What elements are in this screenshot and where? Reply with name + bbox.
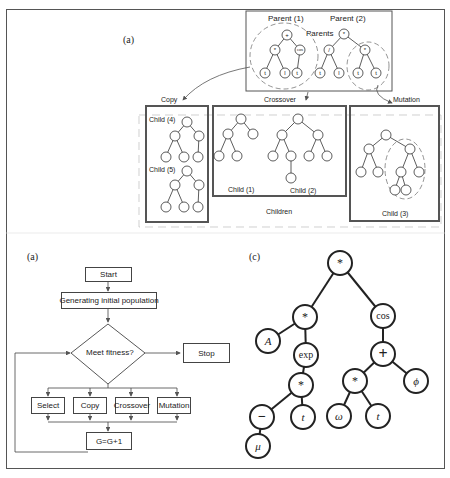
node-t-left: t	[291, 405, 315, 429]
node-exp-mul: *	[289, 373, 313, 397]
child-1-label: Child (1)	[228, 186, 254, 193]
node-t: t	[371, 68, 381, 78]
mutation-label: Mutation	[393, 96, 420, 103]
panel-label-flowchart: (a)	[27, 252, 38, 262]
init-population-box: Generating initial population	[61, 292, 157, 309]
node-plus: +	[282, 30, 292, 40]
child-4-label: Child (4)	[149, 116, 175, 123]
node-l: l	[334, 68, 344, 78]
node-div: /	[324, 45, 334, 55]
node-t-right: t	[366, 404, 390, 428]
child-5-label: Child (5)	[149, 166, 175, 173]
node-t: t	[260, 68, 270, 78]
child-3-label: Child (3)	[382, 210, 408, 217]
node-mul: *	[339, 29, 349, 39]
node-t: t	[353, 68, 363, 78]
node-left-mul: *	[293, 305, 317, 329]
copy-label: Copy	[161, 96, 177, 103]
select-box: Select	[31, 397, 65, 414]
child-2-label: Child (2)	[290, 187, 316, 194]
start-box: Start	[85, 267, 132, 282]
node-mul: *	[360, 45, 370, 55]
stop-box: Stop	[183, 343, 230, 363]
node-phi: ϕ	[404, 369, 428, 393]
node-A: A	[256, 329, 280, 353]
node-mul: *	[270, 45, 280, 55]
crossover-label: Crossover	[264, 96, 296, 103]
parents-label: Parents	[306, 30, 334, 38]
node-exp: exp	[294, 343, 318, 367]
node-omega-mul: *	[343, 369, 367, 393]
parent-1-label: Parent (1)	[268, 15, 304, 23]
node-plus: +	[371, 342, 395, 366]
figure-canvas: (a) Parent (1) Parent (2) Parents Copy C…	[0, 0, 450, 478]
node-omega: ω	[327, 404, 351, 428]
decision-label: Meet fitness?	[86, 349, 134, 357]
parent-2-label: Parent (2)	[330, 15, 366, 23]
crossover-box: Crossover	[115, 397, 149, 414]
panel-label-tree: (c)	[249, 252, 260, 262]
node-root-mul: *	[328, 251, 352, 275]
panel-label-top: (a)	[123, 35, 134, 45]
node-l: l	[280, 68, 290, 78]
node-cos: cos	[371, 304, 395, 328]
node-t: t	[315, 68, 325, 78]
node-minus: −	[250, 405, 274, 429]
mutation-box: Mutation	[157, 397, 191, 414]
node-t: t	[292, 68, 302, 78]
copy-box: Copy	[73, 397, 107, 414]
increment-box: G=G+1	[86, 432, 132, 450]
node-mu: μ	[246, 434, 270, 458]
node-cos: cos	[295, 45, 305, 55]
children-label: Children	[266, 208, 292, 215]
